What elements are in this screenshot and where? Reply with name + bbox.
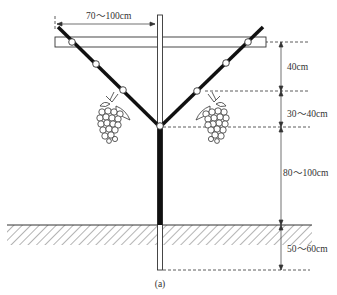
top-segment-label: 40cm — [287, 62, 309, 72]
grape-cluster-left — [97, 92, 130, 143]
figure-caption: (a) — [155, 279, 166, 290]
arm-span-label: 70～100cm — [86, 11, 132, 21]
arm-span-dimension — [57, 22, 155, 26]
trellis-diagram: 70～100cm 40cm 30～40cm 80～100cm 50～60cm (… — [0, 0, 337, 295]
trunk — [158, 127, 163, 225]
trunk-height-label: 80～100cm — [283, 168, 329, 178]
burial-depth-label: 50～60cm — [287, 244, 328, 254]
grape-cluster-right — [196, 92, 229, 143]
middle-segment-label: 30～40cm — [287, 109, 328, 119]
